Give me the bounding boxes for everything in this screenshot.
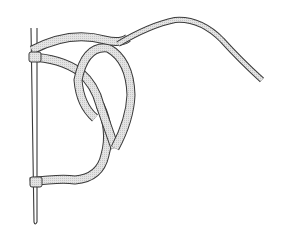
lower-wrap [30, 177, 42, 187]
rope-upper-strand [30, 57, 115, 148]
rope-tail [118, 20, 262, 80]
knot-drawing [0, 0, 281, 229]
knot-illustration: Line drawing of a rope tied in a looped … [0, 0, 281, 229]
upper-wrap [29, 52, 41, 62]
